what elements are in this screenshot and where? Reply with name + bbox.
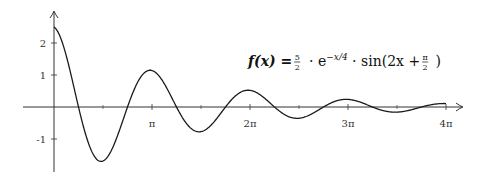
pi-numerator: π <box>423 53 428 62</box>
formula-lhs: f(x) = <box>247 53 297 69</box>
pi-denominator: 2 <box>423 63 428 72</box>
x-tick-label: 3π <box>342 118 355 129</box>
y-tick-label: 1 <box>40 70 46 81</box>
x-tick-label: 4π <box>440 118 453 129</box>
x-tick-label: π <box>149 118 156 129</box>
formula-annotation: f(x) = · e−x/4 · sin(2x + ) <box>247 52 441 69</box>
y-tick-label: -1 <box>36 134 46 145</box>
exponent: −x/4 <box>326 52 348 62</box>
function-curve <box>54 27 446 161</box>
fraction-numerator: 5 <box>295 53 300 62</box>
y-tick-label: 2 <box>40 38 46 49</box>
chart: π2π3π4π21-1 f(x) = · e−x/4 · sin(2x + ) … <box>0 0 485 177</box>
sin-part: · sin(2x + <box>348 53 425 69</box>
closing-paren: ) <box>436 53 441 69</box>
fraction-denominator: 2 <box>295 63 300 72</box>
exp-base: · e <box>309 53 326 69</box>
x-tick-label: 2π <box>244 118 257 129</box>
